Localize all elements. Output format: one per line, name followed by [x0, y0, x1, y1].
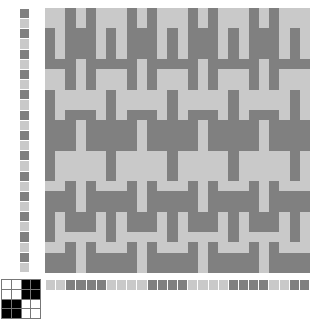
warp-color-swatch[interactable]: [20, 121, 29, 131]
weft-color-swatch[interactable]: [107, 280, 117, 290]
weft-color-swatch[interactable]: [137, 280, 147, 290]
warp-color-swatch[interactable]: [20, 60, 29, 70]
warp-color-strip[interactable]: [19, 8, 30, 273]
weft-color-swatch[interactable]: [290, 280, 300, 290]
warp-color-swatch[interactable]: [20, 253, 29, 263]
tieup-cell[interactable]: [2, 280, 11, 289]
tieup-cell[interactable]: [31, 290, 40, 299]
tieup-cell[interactable]: [31, 300, 40, 309]
warp-color-swatch[interactable]: [20, 80, 29, 90]
weft-color-swatch[interactable]: [87, 280, 97, 290]
warp-color-swatch[interactable]: [20, 151, 29, 161]
weft-color-swatch[interactable]: [148, 280, 158, 290]
woven-cloth-preview[interactable]: [45, 8, 310, 273]
weft-color-swatch[interactable]: [209, 280, 219, 290]
tieup-cell[interactable]: [2, 290, 11, 299]
weft-color-swatch[interactable]: [178, 280, 188, 290]
warp-color-swatch[interactable]: [20, 131, 29, 141]
weft-color-swatch[interactable]: [229, 280, 239, 290]
tieup-cell[interactable]: [12, 309, 21, 318]
tieup-cell[interactable]: [31, 309, 40, 318]
tieup-cell[interactable]: [2, 309, 11, 318]
weft-color-swatch[interactable]: [56, 280, 66, 290]
tieup-cell[interactable]: [22, 280, 31, 289]
tieup-cell[interactable]: [22, 290, 31, 299]
tieup-cell[interactable]: [22, 300, 31, 309]
warp-color-swatch[interactable]: [20, 70, 29, 80]
weft-color-swatch[interactable]: [300, 280, 309, 290]
weft-color-swatch[interactable]: [198, 280, 208, 290]
weft-color-swatch[interactable]: [127, 280, 137, 290]
weft-color-strip[interactable]: [45, 279, 310, 291]
warp-color-swatch[interactable]: [20, 19, 29, 29]
tieup-cell[interactable]: [12, 300, 21, 309]
tieup-cell[interactable]: [31, 280, 40, 289]
warp-color-swatch[interactable]: [20, 192, 29, 202]
warp-color-swatch[interactable]: [20, 39, 29, 49]
warp-color-swatch[interactable]: [20, 9, 29, 19]
tieup-grid[interactable]: [1, 279, 41, 319]
weft-color-swatch[interactable]: [117, 280, 127, 290]
weft-color-swatch[interactable]: [66, 280, 76, 290]
weft-color-swatch[interactable]: [158, 280, 168, 290]
warp-color-swatch[interactable]: [20, 172, 29, 182]
tieup-cell[interactable]: [22, 309, 31, 318]
weft-color-swatch[interactable]: [239, 280, 249, 290]
warp-color-swatch[interactable]: [20, 141, 29, 151]
weft-color-swatch[interactable]: [249, 280, 259, 290]
tieup-cell[interactable]: [2, 300, 11, 309]
warp-color-swatch[interactable]: [20, 161, 29, 171]
warp-color-swatch[interactable]: [20, 243, 29, 253]
weft-color-swatch[interactable]: [188, 280, 198, 290]
weft-color-swatch[interactable]: [76, 280, 86, 290]
warp-color-swatch[interactable]: [20, 202, 29, 212]
weft-color-swatch[interactable]: [280, 280, 290, 290]
warp-color-swatch[interactable]: [20, 29, 29, 39]
warp-color-swatch[interactable]: [20, 50, 29, 60]
warp-color-swatch[interactable]: [20, 232, 29, 242]
warp-color-swatch[interactable]: [20, 222, 29, 232]
weaving-draft-root: [0, 0, 316, 327]
weft-color-swatch[interactable]: [168, 280, 178, 290]
weft-color-swatch[interactable]: [97, 280, 107, 290]
warp-color-swatch[interactable]: [20, 212, 29, 222]
weft-color-swatch[interactable]: [46, 280, 56, 290]
weft-color-swatch[interactable]: [269, 280, 279, 290]
weft-color-swatch[interactable]: [259, 280, 269, 290]
tieup-cell[interactable]: [12, 280, 21, 289]
pattern-canvas[interactable]: [45, 8, 310, 273]
warp-color-swatch[interactable]: [20, 90, 29, 100]
warp-color-swatch[interactable]: [20, 111, 29, 121]
warp-color-swatch[interactable]: [20, 182, 29, 192]
weft-color-swatch[interactable]: [219, 280, 229, 290]
warp-color-swatch[interactable]: [20, 263, 29, 272]
tieup-cell[interactable]: [12, 290, 21, 299]
warp-color-swatch[interactable]: [20, 100, 29, 110]
